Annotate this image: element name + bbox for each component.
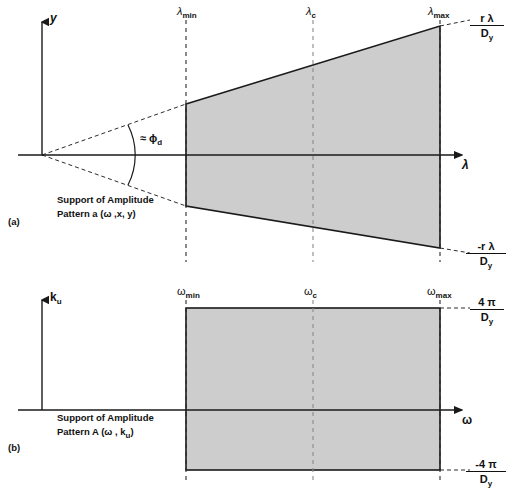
- panel-a-upper-bound-denominator: Dy: [470, 26, 504, 42]
- panel-a-lower-bound-label: -r λ Dy: [466, 240, 506, 270]
- panel-a-tick-lambda-max-sub: max: [433, 11, 449, 20]
- panel-a-tick-label-lambda-min: λmin: [177, 6, 197, 20]
- panel-a-lambda-axis-label: λ: [462, 159, 469, 171]
- panel-a-ubd-sym: D: [481, 27, 489, 39]
- panel-a-lbd-sym: D: [480, 255, 488, 267]
- panel-b-caption-line2-main: Pattern A (ω , k: [57, 426, 126, 437]
- panel-a-tick-lambda-c-sub: c: [311, 11, 315, 20]
- phi-subscript: d: [157, 138, 162, 147]
- panel-b-identifier: (b): [8, 443, 20, 453]
- panel-b-tick-omega-min-sub: min: [186, 291, 200, 300]
- panel-b-lower-bound-label: -4 π Dy: [466, 458, 506, 488]
- panel-a-cone-upper-dashed: [42, 104, 186, 155]
- panel-b-tick-omega-c-sym: ω: [304, 285, 313, 297]
- panel-b-ku-sub: u: [57, 297, 62, 306]
- panel-b-ku-axis-label: ku: [50, 291, 62, 306]
- figure-canvas: y λ λmin λc λmax r λ Dy -r λ Dy ≈ ϕd Sup…: [0, 0, 508, 498]
- panel-b-lower-bound-denominator: Dy: [466, 472, 506, 488]
- panel-b-tick-omega-max-sub: max: [436, 291, 452, 300]
- panel-b-upper-bound-label: 4 π Dy: [470, 296, 504, 326]
- panel-a-divergence-angle-label: ≈ ϕd: [140, 133, 162, 147]
- panel-b-tick-label-omega-max: ωmax: [427, 286, 452, 300]
- panel-a-tick-label-lambda-max: λmax: [428, 6, 449, 20]
- panel-b-lbd-sym: D: [480, 473, 488, 485]
- panel-b-tick-label-omega-c: ωc: [304, 286, 317, 300]
- panel-b-tick-label-omega-min: ωmin: [177, 286, 200, 300]
- approx-symbol: ≈: [140, 132, 146, 144]
- panel-b-lbd-sub: y: [488, 479, 492, 488]
- panel-b-tick-omega-min-sym: ω: [177, 285, 186, 297]
- panel-a-lower-bound-numerator: -r λ: [466, 240, 506, 254]
- panel-b-tick-omega-c-sub: c: [313, 291, 317, 300]
- panel-b-ubd-sub: y: [489, 317, 493, 326]
- panel-a-ubd-sub: y: [489, 33, 493, 42]
- panel-b-caption-line2: Pattern A (ω , ku): [57, 425, 134, 443]
- panel-a-upper-bound-label: r λ Dy: [470, 12, 504, 42]
- panel-a-tick-lambda-min-sub: min: [182, 11, 196, 20]
- panel-b-upper-bound-denominator: Dy: [470, 310, 504, 326]
- panel-a-upper-bound-leader: [440, 20, 470, 26]
- panel-a-tick-label-lambda-c: λc: [306, 6, 316, 20]
- panel-b-ku-sym: k: [50, 290, 57, 304]
- panel-b-upper-bound-numerator: 4 π: [470, 296, 504, 310]
- panel-b-caption-line2-end: ): [130, 426, 133, 437]
- panel-b-tick-omega-max-sym: ω: [427, 285, 436, 297]
- panel-a-upper-bound-numerator: r λ: [470, 12, 504, 26]
- panel-a-identifier: (a): [8, 217, 20, 227]
- panel-a-caption-line2: Pattern a (ω ,x, y): [57, 207, 136, 221]
- panel-b-lower-bound-numerator: -4 π: [466, 458, 506, 472]
- panel-a-y-axis-label: y: [50, 12, 57, 24]
- panel-b-omega-axis-label: ω: [462, 414, 472, 426]
- panel-a-lbd-sub: y: [488, 261, 492, 270]
- panel-b-caption-line1: Support of Amplitude: [57, 411, 154, 425]
- panel-a-lower-bound-denominator: Dy: [466, 254, 506, 270]
- panel-b-ubd-sym: D: [481, 311, 489, 323]
- panel-a-caption-line1: Support of Amplitude: [57, 193, 154, 207]
